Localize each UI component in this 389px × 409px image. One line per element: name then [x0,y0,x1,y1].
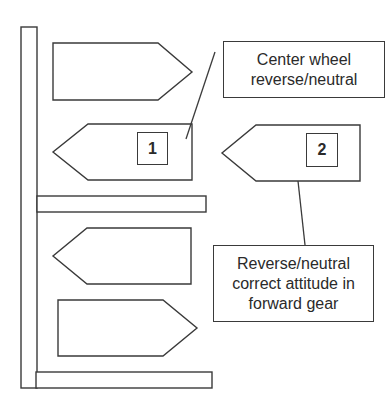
marker-1-label: 1 [148,140,157,158]
marker-2: 2 [306,133,338,167]
marker-2-label: 2 [318,141,327,159]
callout-center-wheel-line-2: reverse/neutral [251,70,358,90]
middle-horizontal-bar [37,196,206,212]
arrow-3-left-pointing [222,125,360,181]
callout-center-wheel-line-1: Center wheel [251,50,358,70]
arrow-4-left-pointing [53,228,191,284]
callout-correct-attitude: Reverse/neutral correct attitude in forw… [213,245,374,322]
vertical-bar [21,27,37,388]
leader-line-correct-attitude [298,181,305,245]
marker-1: 1 [137,132,168,165]
arrow-5-right-pointing [58,300,197,356]
arrow-1-right-pointing [53,43,192,100]
callout-center-wheel: Center wheel reverse/neutral [223,41,385,98]
leader-line-center-wheel [186,52,215,139]
arrow-2-left-pointing [53,124,192,180]
callout-correct-attitude-line-3: forward gear [232,294,355,314]
bottom-horizontal-bar [36,372,212,388]
callout-correct-attitude-line-1: Reverse/neutral [232,254,355,274]
callout-correct-attitude-line-2: correct attitude in [232,274,355,294]
